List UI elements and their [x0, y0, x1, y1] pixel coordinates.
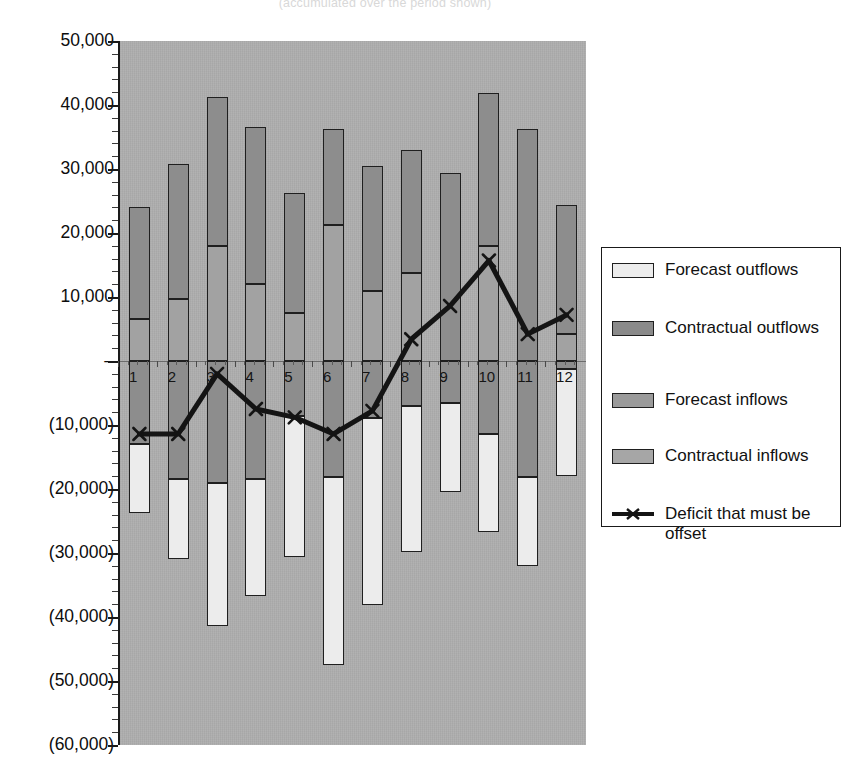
x-axis-minor-tick	[380, 361, 381, 365]
legend-item[interactable]: Forecast inflows	[612, 390, 788, 410]
legend-item-label: Contractual inflows	[665, 446, 809, 466]
x-axis-minor-tick	[370, 361, 371, 365]
x-axis-minor-tick	[254, 361, 255, 365]
x-axis-tick	[118, 361, 119, 367]
legend-color-swatch	[612, 321, 654, 336]
x-axis-minor-tick	[565, 361, 566, 365]
x-axis-tick-label: 2	[168, 369, 176, 384]
x-axis-minor-tick	[264, 361, 265, 365]
y-axis-tick-label: 40,000	[18, 96, 114, 114]
x-axis-tick	[157, 361, 158, 367]
y-axis-tick	[108, 745, 118, 747]
y-axis-tick-label: (20,000)	[18, 480, 114, 498]
legend-item-label: Contractual outflows	[665, 318, 819, 338]
y-axis-tick-label: 10,000	[18, 288, 114, 306]
x-axis-tick	[196, 361, 197, 367]
x-axis-tick-label: 10	[478, 369, 495, 384]
y-axis: 50,00040,00030,00020,00010,000–(10,000)(…	[0, 0, 114, 777]
x-axis-minor-tick	[341, 361, 342, 365]
chart-title-partial: (accumulated over the period shown)	[175, 0, 595, 12]
x-axis-minor-tick	[302, 361, 303, 365]
y-axis-tick	[108, 41, 118, 43]
y-axis-tick-label: (60,000)	[18, 736, 114, 754]
x-axis-tick	[273, 361, 274, 367]
x-axis-tick-label: 6	[323, 369, 331, 384]
plot-area	[118, 41, 586, 745]
x-axis-minor-tick	[574, 361, 575, 365]
legend-item-label: Deficit that must be offset	[665, 504, 840, 544]
legend-item-label: Forecast inflows	[665, 390, 788, 410]
chart-legend: Forecast outflowsContractual outflowsFor…	[601, 247, 841, 527]
x-axis-minor-tick	[477, 361, 478, 365]
y-axis-tick	[108, 489, 118, 491]
y-axis-tick	[108, 361, 118, 363]
x-axis-minor-tick	[487, 361, 488, 365]
x-axis-minor-tick	[535, 361, 536, 365]
y-axis-tick	[108, 553, 118, 555]
deficit-line-series	[120, 41, 586, 745]
x-axis-minor-tick	[176, 361, 177, 365]
legend-item[interactable]: Deficit that must be offset	[612, 504, 840, 544]
x-axis-tick	[468, 361, 469, 367]
x-axis-minor-tick	[419, 361, 420, 365]
x-axis-minor-tick	[438, 361, 439, 365]
x-axis-tick-label: 11	[517, 369, 533, 384]
x-axis-minor-tick	[526, 361, 527, 365]
x-axis-minor-tick	[555, 361, 556, 365]
legend-color-swatch	[612, 393, 654, 408]
y-axis-tick-label: –	[18, 352, 114, 370]
x-axis-minor-tick	[244, 361, 245, 365]
x-axis-tick	[235, 361, 236, 367]
x-axis-minor-tick	[186, 361, 187, 365]
y-axis-tick	[108, 681, 118, 683]
y-axis-tick	[108, 105, 118, 107]
x-axis-minor-tick	[147, 361, 148, 365]
cashflow-chart-figure: (accumulated over the period shown) 50,0…	[0, 0, 848, 777]
legend-item[interactable]: Contractual inflows	[612, 446, 809, 466]
y-axis-tick-label: 30,000	[18, 160, 114, 178]
x-axis-minor-tick	[516, 361, 517, 365]
x-axis-tick	[312, 361, 313, 367]
x-axis-tick	[429, 361, 430, 367]
x-axis-minor-tick	[332, 361, 333, 365]
legend-line-swatch	[612, 507, 654, 521]
deficit-line-marker-x	[444, 300, 456, 312]
legend-item[interactable]: Contractual outflows	[612, 318, 819, 338]
legend-color-swatch	[612, 449, 654, 464]
x-axis-tick-label: 5	[284, 369, 292, 384]
x-axis-tick-label: 8	[401, 369, 409, 384]
x-axis-minor-tick	[128, 361, 129, 365]
x-axis-minor-tick	[409, 361, 410, 365]
x-axis-minor-tick	[361, 361, 362, 365]
x-axis-minor-tick	[293, 361, 294, 365]
y-axis-tick	[108, 233, 118, 235]
y-axis-tick	[108, 617, 118, 619]
x-axis-tick-label: 3	[207, 369, 215, 384]
x-axis-minor-tick	[205, 361, 206, 365]
x-axis-minor-tick	[283, 361, 284, 365]
x-axis-minor-tick	[497, 361, 498, 365]
x-axis-minor-tick	[225, 361, 226, 365]
x-axis-tick	[545, 361, 546, 367]
y-axis-tick-label: (30,000)	[18, 544, 114, 562]
y-axis-tick-label: 20,000	[18, 224, 114, 242]
x-axis-tick	[351, 361, 352, 367]
x-axis-tick	[506, 361, 507, 367]
x-axis-minor-tick	[137, 361, 138, 365]
x-axis-tick	[390, 361, 391, 367]
x-axis-minor-tick	[448, 361, 449, 365]
y-axis-tick	[108, 169, 118, 171]
x-axis-minor-tick	[215, 361, 216, 365]
legend-item[interactable]: Forecast outflows	[612, 260, 798, 280]
legend-color-swatch	[612, 263, 654, 278]
x-axis-minor-tick	[400, 361, 401, 365]
x-axis-tick-label: 9	[440, 369, 448, 384]
x-axis-tick-label: 1	[129, 369, 137, 384]
x-axis-minor-tick	[322, 361, 323, 365]
y-axis-tick-label: (40,000)	[18, 608, 114, 626]
deficit-line-path	[139, 261, 566, 434]
y-axis-tick	[108, 297, 118, 299]
y-axis-tick-label: (10,000)	[18, 416, 114, 434]
x-axis-tick-label: 4	[245, 369, 253, 384]
x-axis-tick-label: 7	[362, 369, 370, 384]
